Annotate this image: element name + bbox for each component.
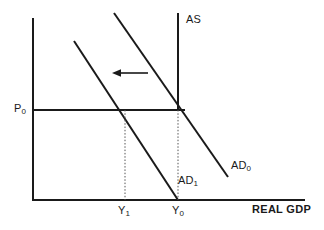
y1-axis-label: Y1 xyxy=(118,205,130,216)
ad-as-diagram: AS P0 AD0 AD1 Y1 Y0 REAL GDP xyxy=(0,0,324,230)
ad1-curve xyxy=(74,41,178,200)
ad0-curve-label: AD0 xyxy=(231,160,251,171)
p0-axis-label: P0 xyxy=(14,103,26,114)
x-axis-title: REAL GDP xyxy=(252,204,311,215)
as-curve-label: AS xyxy=(186,14,201,25)
ad1-curve-label: AD1 xyxy=(178,175,198,186)
diagram-canvas xyxy=(0,0,324,230)
leftward-shift-arrow xyxy=(112,69,148,77)
y0-axis-label: Y0 xyxy=(172,205,184,216)
ad0-curve xyxy=(114,13,228,177)
